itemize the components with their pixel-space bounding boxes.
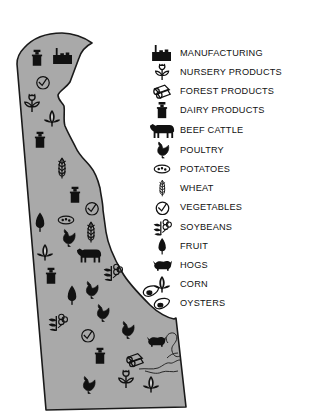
legend-label: CORN xyxy=(180,279,208,289)
milk-can-icon xyxy=(148,101,176,119)
legend-item-manufacturing: MANUFACTURING xyxy=(148,44,263,62)
wheat-icon xyxy=(87,222,94,242)
legend-label: HOGS xyxy=(180,260,208,270)
legend-label: MANUFACTURING xyxy=(180,48,263,58)
legend-label: FRUIT xyxy=(180,241,208,251)
hog-icon xyxy=(148,256,176,274)
soybean-plant-icon xyxy=(148,218,176,236)
legend-item-soybeans: SOYBEANS xyxy=(148,218,232,236)
legend-item-vegetables: VEGETABLES xyxy=(148,198,242,216)
cow-icon xyxy=(148,121,176,139)
legend-item-nursery: NURSERY PRODUCTS xyxy=(148,63,282,81)
legend-label: VEGETABLES xyxy=(180,202,242,212)
legend-item-beef: BEEF CATTLE xyxy=(148,121,243,139)
legend-label: OYSTERS xyxy=(180,298,225,308)
tomato-icon xyxy=(148,198,176,216)
factory-icon xyxy=(148,44,176,62)
legend-item-poultry: POULTRY xyxy=(148,141,224,159)
legend-label: FOREST PRODUCTS xyxy=(180,86,274,96)
logs-icon xyxy=(148,82,176,100)
legend-label: POULTRY xyxy=(180,145,224,155)
legend-label: BEEF CATTLE xyxy=(180,125,243,135)
tree-icon xyxy=(148,237,176,255)
legend-label: SOYBEANS xyxy=(180,222,232,232)
wheat-icon xyxy=(58,158,65,178)
oyster-icon xyxy=(148,294,176,312)
legend-item-fruit: FRUIT xyxy=(148,237,208,255)
legend-item-dairy: DAIRY PRODUCTS xyxy=(148,101,265,119)
legend-item-wheat: WHEAT xyxy=(148,179,214,197)
legend-item-potatoes: POTATOES xyxy=(148,160,230,178)
legend-label: POTATOES xyxy=(180,164,230,174)
wheat-icon xyxy=(148,179,176,197)
legend-label: WHEAT xyxy=(180,183,214,193)
legend-item-forest: FOREST PRODUCTS xyxy=(148,82,274,100)
legend-item-corn: CORN xyxy=(148,275,208,293)
legend-item-oysters: OYSTERS xyxy=(148,294,225,312)
plant-flower-icon xyxy=(148,63,176,81)
corn-icon xyxy=(148,275,176,293)
legend-label: DAIRY PRODUCTS xyxy=(180,105,265,115)
legend-label: NURSERY PRODUCTS xyxy=(180,67,282,77)
legend-item-hogs: HOGS xyxy=(148,256,208,274)
potato-icon xyxy=(148,160,176,178)
chicken-icon xyxy=(148,141,176,159)
